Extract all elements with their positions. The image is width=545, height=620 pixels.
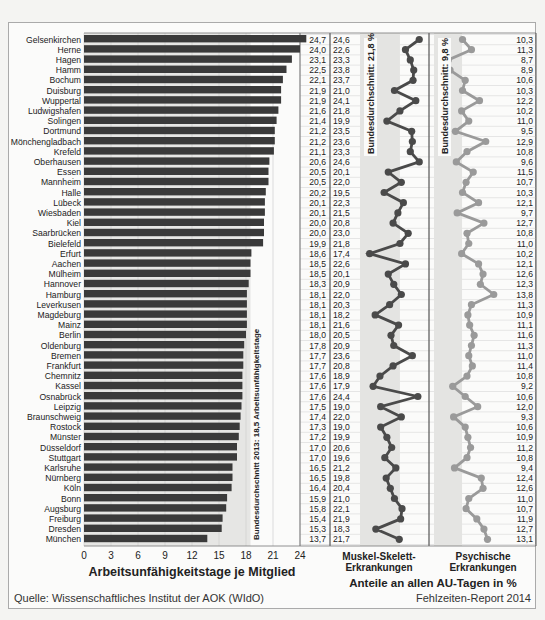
muskel-value: 20,8 <box>333 218 350 228</box>
bar <box>84 300 247 307</box>
psych-value: 12,6 <box>516 269 533 279</box>
muskel-value: 21,9 <box>333 514 350 524</box>
muskel-value: 22,1 <box>333 504 350 514</box>
muskel-value: 18,9 <box>333 371 350 381</box>
bar <box>84 392 242 399</box>
city-label: Kassel <box>55 381 81 391</box>
bar <box>84 157 269 164</box>
bar-value: 17,8 <box>309 341 326 351</box>
chart-canvas: Gelsenkirchen24,724,610,3Herne24,022,611… <box>0 0 545 620</box>
city-label: Oldenburg <box>41 341 81 351</box>
muskel-point <box>409 77 416 84</box>
psych-point <box>468 342 475 349</box>
psych-value: 12,1 <box>516 259 533 269</box>
bar-value: 17,7 <box>309 361 326 371</box>
psych-point <box>465 240 472 247</box>
muskel-value: 17,4 <box>333 249 350 259</box>
bar <box>84 259 251 266</box>
bar <box>84 321 247 328</box>
city-label: Solingen <box>48 116 82 126</box>
bar <box>84 55 292 62</box>
x-tick-label: 12 <box>186 550 198 561</box>
bar-value: 13,7 <box>309 534 326 544</box>
muskel-value: 23,8 <box>333 65 350 75</box>
muskel-point <box>412 97 419 104</box>
bar <box>84 494 227 501</box>
city-label: Freiburg <box>49 514 81 524</box>
muskel-point <box>405 230 412 237</box>
bar-value: 17,4 <box>309 412 326 422</box>
muskel-value: 19,9 <box>333 432 350 442</box>
bar-value: 18,1 <box>309 290 326 300</box>
muskel-point <box>383 434 390 441</box>
psych-value: 10,8 <box>516 228 533 238</box>
psych-point <box>475 260 482 267</box>
psych-reference-label: Bundesdurchschnitt: 9,8 % <box>440 38 450 154</box>
psych-value: 10,2 <box>516 106 533 116</box>
psych-value: 9,6 <box>521 157 533 167</box>
muskel-value: 23,7 <box>333 75 350 85</box>
psych-point <box>470 169 477 176</box>
psych-value: 12,7 <box>516 218 533 228</box>
psych-point <box>480 220 487 227</box>
muskel-value: 20,4 <box>333 483 350 493</box>
psych-title-1: Psychische <box>455 551 510 562</box>
city-label: Bonn <box>61 494 81 504</box>
muskel-point <box>390 281 397 288</box>
bar <box>84 76 283 83</box>
bar <box>84 117 277 124</box>
city-label: Mönchengladbach <box>11 137 81 147</box>
bar-value: 24,0 <box>309 45 326 55</box>
psych-value: 8,7 <box>521 55 533 65</box>
muskel-value: 17,9 <box>333 381 350 391</box>
muskel-point <box>416 158 423 165</box>
bar-value: 16,5 <box>309 473 326 483</box>
psych-value: 9,2 <box>521 381 533 391</box>
psych-point <box>476 97 483 104</box>
muskel-point <box>389 220 396 227</box>
psych-value: 10,9 <box>516 432 533 442</box>
city-label: Gelsenkirchen <box>26 35 81 45</box>
muskel-value: 24,6 <box>333 35 350 45</box>
city-label: Frankfurt <box>47 361 82 371</box>
psych-value: 9,5 <box>521 126 533 136</box>
city-label: Kiel <box>67 218 81 228</box>
muskel-value: 18,2 <box>333 310 350 320</box>
reference-label: Bundesdurchschnitt 2013: 18,5 Arbeitsunf… <box>252 328 261 540</box>
psych-title-2: Erkrankungen <box>449 562 516 573</box>
psych-point <box>468 301 475 308</box>
bar <box>84 443 237 450</box>
bar-value: 16,4 <box>309 483 326 493</box>
psych-point <box>479 271 486 278</box>
bar-value: 17,2 <box>309 432 326 442</box>
muskel-value: 21,0 <box>333 86 350 96</box>
muskel-value: 22,6 <box>333 45 350 55</box>
x-tick-label: 21 <box>267 550 279 561</box>
bar-value: 18,1 <box>309 300 326 310</box>
shared-axis-title: Anteile an allen AU-Tagen in % <box>349 577 516 589</box>
muskel-point <box>407 56 414 63</box>
muskel-value: 22,3 <box>333 198 350 208</box>
muskel-point <box>396 240 403 247</box>
psych-value: 11,2 <box>517 443 533 453</box>
bar <box>84 504 226 511</box>
bar-value: 17,3 <box>309 422 326 432</box>
city-label: Düsseldorf <box>40 443 82 453</box>
muskel-point <box>366 250 373 257</box>
bar-value: 18,1 <box>309 310 326 320</box>
psych-point <box>464 311 471 318</box>
muskel-value: 22,0 <box>333 290 350 300</box>
city-label: Nürnberg <box>45 473 81 483</box>
psych-point <box>466 322 473 329</box>
city-label: Essen <box>57 167 81 177</box>
bar-value: 17,7 <box>309 351 326 361</box>
psych-value: 10,7 <box>516 504 533 514</box>
muskel-value: 21,7 <box>333 534 350 544</box>
muskel-value: 19,8 <box>333 473 350 483</box>
bar-value: 20,2 <box>309 188 326 198</box>
psych-point <box>459 87 466 94</box>
x-tick-label: 24 <box>294 550 306 561</box>
muskel-point <box>409 138 416 145</box>
psych-point <box>463 230 470 237</box>
bar-value: 24,7 <box>309 35 326 45</box>
